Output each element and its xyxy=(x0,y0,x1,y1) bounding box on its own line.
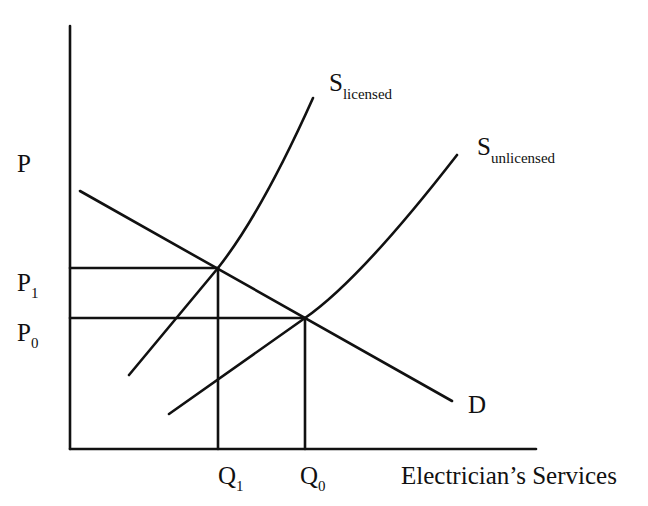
p0-label: P0 xyxy=(17,319,38,351)
demand-curve xyxy=(80,191,452,401)
supply-demand-chart: P P1 P0 Q1 Q0 Electrician’s Services Sli… xyxy=(0,0,648,506)
demand-label: D xyxy=(468,391,486,418)
supply-licensed-label: Slicensed xyxy=(329,69,393,102)
x-axis-label: Electrician’s Services xyxy=(401,462,617,489)
supply-licensed-curve xyxy=(129,98,313,375)
y-axis-label: P xyxy=(17,150,31,177)
supply-unlicensed-label: Sunlicensed xyxy=(477,133,556,166)
q0-label: Q0 xyxy=(300,462,326,494)
p1-label: P1 xyxy=(17,269,38,301)
supply-unlicensed-curve xyxy=(169,155,457,414)
q1-label: Q1 xyxy=(218,462,244,494)
